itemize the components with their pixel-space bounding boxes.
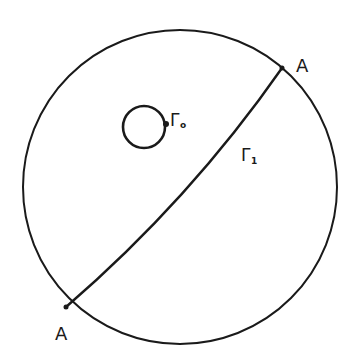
inner-loop-gamma-0 xyxy=(123,106,165,148)
arc-gamma-1 xyxy=(66,68,282,307)
point-a-top xyxy=(280,66,285,71)
label-a-top: A xyxy=(296,55,309,76)
svg-text:Γ: Γ xyxy=(241,145,251,165)
outer-circle xyxy=(23,30,337,344)
loop-base-point xyxy=(163,121,169,127)
point-a-bottom xyxy=(64,305,69,310)
label-gamma-1: Γ 1 xyxy=(241,145,257,166)
label-gamma-0: Γ o xyxy=(170,110,186,130)
diagram-canvas: A A Γ o Γ 1 xyxy=(0,0,352,364)
svg-text:Γ: Γ xyxy=(170,110,180,130)
svg-text:1: 1 xyxy=(251,156,257,166)
svg-text:o: o xyxy=(180,120,186,130)
label-a-bottom: A xyxy=(55,323,68,344)
